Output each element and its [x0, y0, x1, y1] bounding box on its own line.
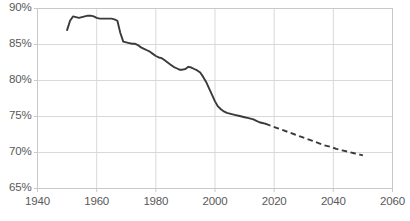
x-tick-label: 1940: [18, 195, 58, 207]
x-tick-label: 1980: [136, 195, 176, 207]
x-tick-label: 2000: [195, 195, 235, 207]
y-tick-label: 70%: [0, 145, 32, 157]
x-tick-label: 2040: [313, 195, 353, 207]
y-tick-label: 90%: [0, 1, 32, 13]
y-tick-label: 85%: [0, 37, 32, 49]
x-tick-label: 2020: [254, 195, 294, 207]
y-tick-label: 75%: [0, 109, 32, 121]
x-tick-label: 1960: [77, 195, 117, 207]
y-tick-label: 80%: [0, 73, 32, 85]
x-tick-label: 2060: [373, 195, 410, 207]
series-line-projection: [265, 124, 363, 156]
y-tick-label: 65%: [0, 181, 32, 193]
grid-lines: [38, 9, 393, 189]
axis-ticks: [34, 9, 393, 193]
